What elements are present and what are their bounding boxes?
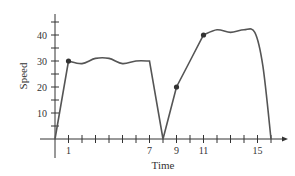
x-tick-label: 9 [174, 145, 179, 156]
y-axis-label: Speed [17, 62, 29, 89]
x-tick-label: 15 [253, 145, 263, 156]
x-tick-label: 1 [66, 145, 71, 156]
x-axis-arrow-icon [282, 137, 288, 142]
y-tick-label: 40 [37, 30, 47, 41]
speed-curve [55, 29, 271, 139]
data-point-marker [66, 58, 71, 63]
y-tick-label: 10 [37, 108, 47, 119]
y-tick-label: 20 [37, 82, 47, 93]
x-axis-label: Time [152, 159, 175, 171]
x-tick-label: 7 [147, 145, 152, 156]
speed-time-chart: 179111510203040 Time Speed [0, 0, 295, 176]
y-tick-label: 30 [37, 56, 47, 67]
data-point-marker [201, 32, 206, 37]
data-point-marker [174, 84, 179, 89]
x-tick-label: 11 [199, 145, 209, 156]
